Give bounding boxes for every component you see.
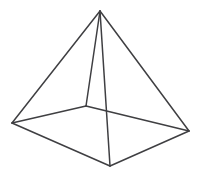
figure-canvas [0, 0, 202, 186]
edge-base-front-to-left [12, 123, 110, 166]
edge-base-right-to-front [110, 131, 189, 166]
edge-apex-to-base-front [100, 11, 110, 166]
pyramid-wireframe-svg [0, 0, 202, 186]
